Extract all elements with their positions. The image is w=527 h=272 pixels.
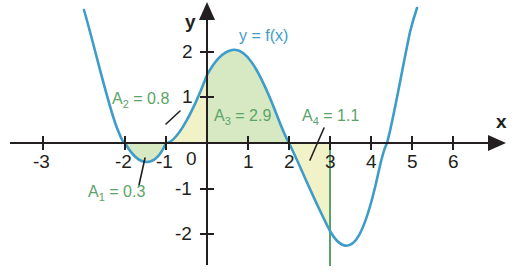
origin-label: 0 <box>186 149 197 168</box>
area-label-A4: A4 = 1.1 <box>302 108 359 127</box>
area-label-A1-value: = 0.3 <box>105 183 145 200</box>
x-tick-label-1: 1 <box>243 152 254 171</box>
y-tick-label-1: 1 <box>182 87 193 106</box>
y-tick-label-2: 2 <box>182 42 193 61</box>
x-tick-label--1: -1 <box>156 152 173 171</box>
x-tick-label-2: 2 <box>284 152 295 171</box>
x-axis-label: x <box>496 112 507 131</box>
y-axis-label: y <box>185 12 196 31</box>
area-label-A3-name: A <box>214 107 225 124</box>
x-tick-label-6: 6 <box>448 152 459 171</box>
x-tick-label--2: -2 <box>115 152 132 171</box>
area-label-A4-name: A <box>302 107 313 124</box>
function-graph-figure: x y 0 -3 -2 -1 1 2 3 4 5 6 2 1 -1 -2 y =… <box>0 0 527 272</box>
area-label-A1-name: A <box>88 183 99 200</box>
x-tick-label--3: -3 <box>33 152 50 171</box>
shaded-areas <box>125 50 330 231</box>
function-label: y = f(x) <box>239 28 288 44</box>
x-tick-label-3: 3 <box>325 152 336 171</box>
area-label-A2-name: A <box>112 90 123 107</box>
area-region-A3 <box>207 50 289 143</box>
leader-line-A2 <box>166 111 180 124</box>
area-label-A2-value: = 0.8 <box>129 90 169 107</box>
area-label-A4-value: = 1.1 <box>319 107 359 124</box>
area-label-A3-value: = 2.9 <box>231 107 271 124</box>
area-label-A1: A1 = 0.3 <box>88 184 145 203</box>
area-label-A3: A3 = 2.9 <box>214 108 271 127</box>
x-tick-label-5: 5 <box>407 152 418 171</box>
area-label-A2: A2 = 0.8 <box>112 91 169 110</box>
x-tick-label-4: 4 <box>366 152 377 171</box>
y-tick-label--1: -1 <box>175 179 192 198</box>
y-tick-label--2: -2 <box>175 224 192 243</box>
